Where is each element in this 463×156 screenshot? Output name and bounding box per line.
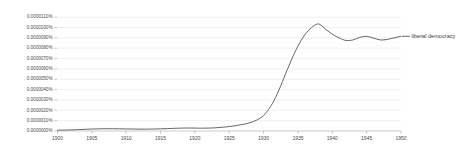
x-axis-tick-label: 1905 [86,135,97,141]
x-axis-tick-labels: 1900190519101915192019251930193519401945… [52,135,407,141]
y-axis-tick-label: 0.0000000% [27,128,53,133]
x-axis-tick-label: 1910 [121,135,132,141]
y-axis-tick-label: 0.0000010% [27,118,53,123]
y-axis-tick-label: 0.0000090% [27,35,53,40]
x-axis-tick-label: 1940 [327,135,338,141]
chart-canvas: 0.0000000%0.0000010%0.0000020%0.0000030%… [0,0,463,156]
x-axis-tick-label: 1920 [189,135,200,141]
y-axis-tick-label: 0.0000110% [27,14,52,19]
y-tick-marks [55,17,58,131]
x-axis-tick-label: 1945 [361,135,372,141]
series-lines[interactable] [58,24,402,130]
y-axis-tick-label: 0.0000020% [27,108,53,113]
ngram-chart: 0.0000000%0.0000010%0.0000020%0.0000030%… [0,0,463,156]
y-axis-tick-label: 0.0000100% [27,25,53,30]
y-axis-tick-label: 0.0000070% [27,56,53,61]
x-tick-marks [58,131,402,134]
legend-label[interactable]: liberal democracy [412,33,456,39]
x-axis-tick-label: 1915 [155,135,166,141]
y-axis-tick-labels: 0.0000000%0.0000010%0.0000020%0.0000030%… [27,14,53,133]
x-axis-tick-label: 1930 [258,135,269,141]
y-axis-tick-label: 0.0000080% [27,45,53,50]
x-axis-tick-label: 1900 [52,135,63,141]
y-axis-tick-label: 0.0000030% [27,97,53,102]
x-axis-tick-label: 1935 [292,135,303,141]
y-axis-tick-label: 0.0000060% [27,66,53,71]
series-line[interactable] [58,24,402,130]
y-axis-tick-label: 0.0000050% [27,76,53,81]
y-axis-tick-label: 0.0000040% [27,87,53,92]
gridlines [58,17,402,120]
x-axis-tick-label: 1950 [395,135,406,141]
x-axis-tick-label: 1925 [224,135,235,141]
legend[interactable]: liberal democracy [402,33,456,39]
